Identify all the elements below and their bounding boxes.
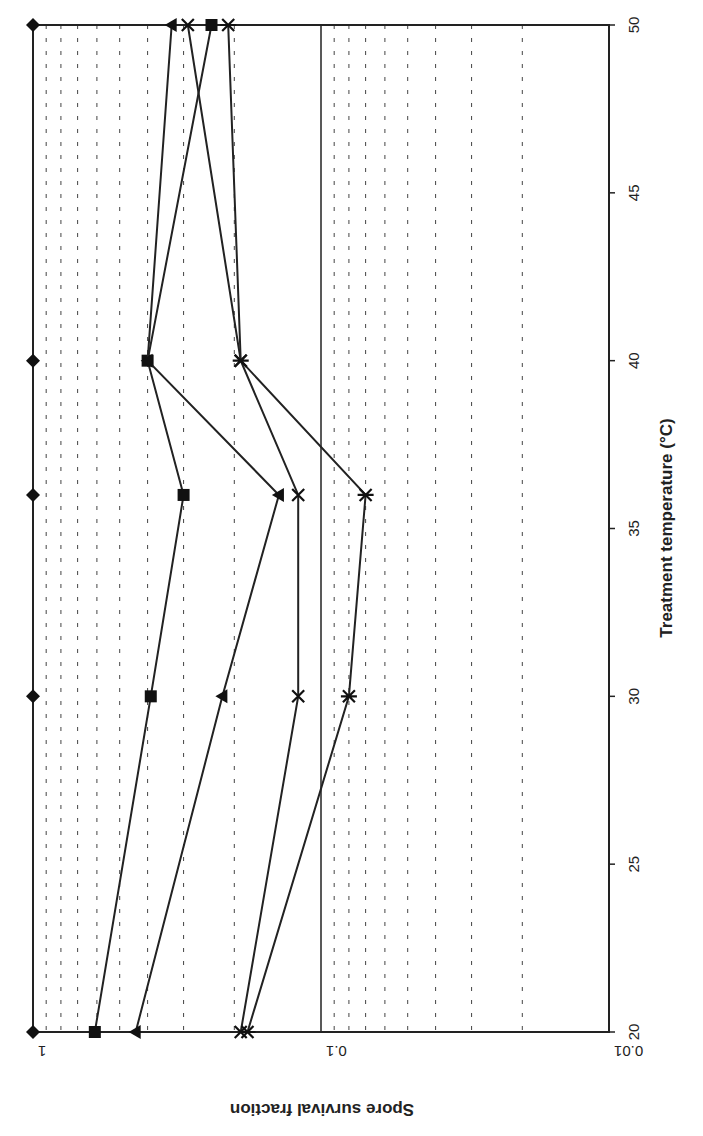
y-axis-label: Spore survival fraction <box>230 1100 414 1119</box>
x-tick-label: 20 <box>625 1024 642 1041</box>
series-line-triangle <box>136 25 279 1032</box>
marker-diamond-icon <box>26 354 40 368</box>
marker-diamond-icon <box>26 689 40 703</box>
y-axis-ticks: 10.10.01 <box>38 1043 643 1060</box>
marker-diamond-icon <box>26 488 40 502</box>
x-tick-label: 50 <box>625 17 642 34</box>
y-tick-label: 1 <box>38 1043 46 1060</box>
marker-square-icon <box>205 19 217 31</box>
marker-diamond-icon <box>26 18 40 32</box>
series-line-square <box>95 25 212 1032</box>
x-axis-ticks: 20253035404550 <box>609 17 642 1041</box>
x-tick-label: 40 <box>625 352 642 369</box>
x-axis-label: Treatment temperature (°C) <box>657 418 676 637</box>
grid-lines <box>46 25 522 1032</box>
x-tick-label: 45 <box>625 184 642 201</box>
y-tick-label: 0.01 <box>614 1043 643 1060</box>
x-tick-label: 30 <box>625 688 642 705</box>
marker-asterisk-icon <box>239 1026 255 1038</box>
y-tick-label: 0.1 <box>326 1043 347 1060</box>
series-line-cross <box>188 25 298 1032</box>
series-line-star <box>228 25 365 1032</box>
marker-diamond-icon <box>26 1025 40 1039</box>
x-tick-label: 35 <box>625 520 642 537</box>
marker-square-icon <box>145 690 157 702</box>
marker-triangle-icon <box>129 1025 141 1039</box>
marker-square-icon <box>89 1026 101 1038</box>
marker-square-icon <box>178 489 190 501</box>
x-tick-label: 25 <box>625 856 642 873</box>
survival-chart: 20253035404550 10.10.01 Treatment temper… <box>0 0 703 1136</box>
